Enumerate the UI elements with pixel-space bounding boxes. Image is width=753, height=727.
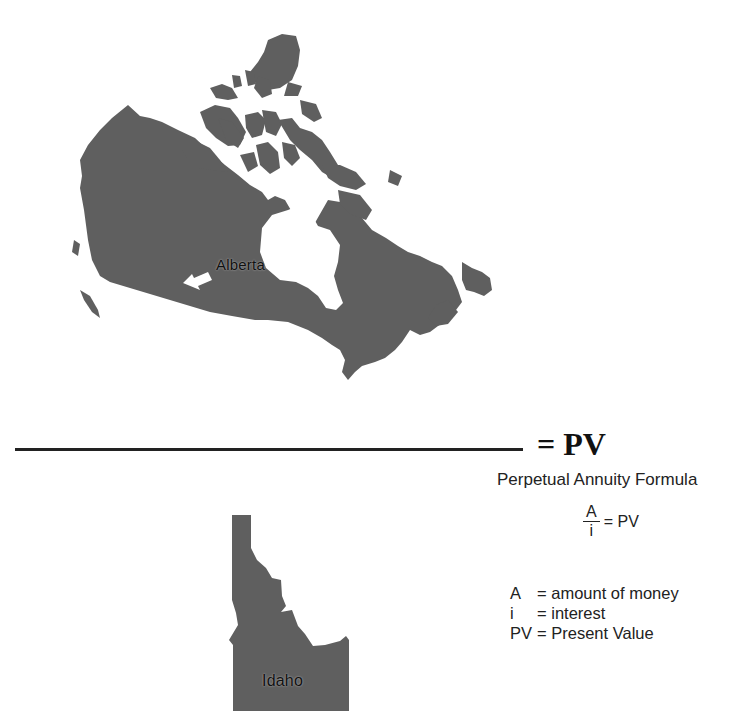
legend-row-a: A = amount of money bbox=[510, 583, 679, 603]
formula-fraction: A i = PV bbox=[583, 503, 639, 540]
numerator: A bbox=[583, 503, 600, 522]
legend-symbol: A bbox=[510, 583, 537, 603]
legend-meaning: = amount of money bbox=[537, 583, 679, 603]
fraction-bar-line bbox=[15, 448, 523, 451]
formula-title: Perpetual Annuity Formula bbox=[497, 470, 697, 490]
legend-symbol: PV bbox=[510, 623, 537, 643]
fraction: A i bbox=[583, 503, 600, 540]
canada-map bbox=[0, 0, 753, 400]
alberta-label: Alberta bbox=[216, 256, 265, 273]
denominator: i bbox=[590, 522, 594, 540]
legend-row-i: i = interest bbox=[510, 603, 679, 623]
legend-meaning: = Present Value bbox=[537, 623, 654, 643]
idaho-label: Idaho bbox=[262, 672, 303, 690]
equation-result: = PV bbox=[537, 426, 606, 463]
legend-symbol: i bbox=[510, 603, 537, 623]
formula-equals: = PV bbox=[604, 513, 639, 531]
legend-row-pv: PV = Present Value bbox=[510, 623, 679, 643]
legend-meaning: = interest bbox=[537, 603, 605, 623]
formula-legend: A = amount of money i = interest PV = Pr… bbox=[510, 583, 679, 643]
